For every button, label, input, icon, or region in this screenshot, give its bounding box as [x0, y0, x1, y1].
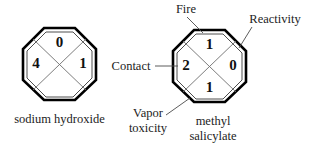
- sodium-hydroxide-contact-value: 4: [32, 55, 40, 71]
- sodium-hydroxide-reactivity-value: 1: [79, 55, 87, 71]
- fire-label: Fire: [176, 2, 197, 16]
- contact-label: Contact: [112, 59, 151, 73]
- methyl-salicylate-reactivity-value: 0: [229, 57, 237, 73]
- vapor-toxicity-leader-line: [166, 98, 190, 115]
- reactivity-leader-line: [239, 27, 252, 48]
- diagram-canvas: 0 4 1 sodium hydroxide 1 2 0 1 methyl sa…: [0, 0, 319, 151]
- methyl-salicylate-caption-line-2: salicylate: [189, 129, 237, 143]
- methyl-salicylate-contact-value: 2: [182, 57, 190, 73]
- vapor-toxicity-label-line-1: Vapor: [133, 106, 164, 120]
- methyl-salicylate-fire-value: 1: [206, 36, 214, 52]
- methyl-salicylate-vapor-value: 1: [206, 79, 214, 95]
- sodium-hydroxide-fire-value: 0: [56, 34, 64, 50]
- hazard-diamond-figure: 0 4 1 sodium hydroxide 1 2 0 1 methyl sa…: [0, 0, 319, 151]
- vapor-toxicity-label-line-2: toxicity: [129, 121, 168, 135]
- methyl-salicylate-diagram: 1 2 0 1 methyl salicylate: [173, 30, 246, 143]
- sodium-hydroxide-caption: sodium hydroxide: [14, 112, 105, 126]
- methyl-salicylate-caption-line-1: methyl: [196, 114, 231, 128]
- reactivity-label: Reactivity: [249, 12, 301, 26]
- sodium-hydroxide-diagram: 0 4 1 sodium hydroxide: [14, 28, 105, 126]
